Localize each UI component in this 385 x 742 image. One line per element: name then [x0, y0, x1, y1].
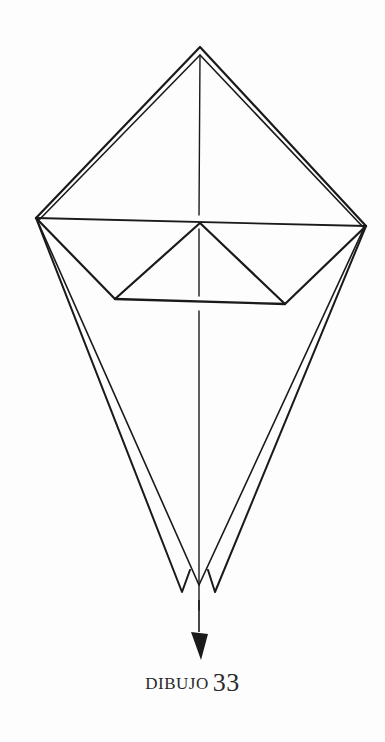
caption-number: 33: [213, 668, 240, 697]
right-lower-edges: [199, 226, 366, 592]
left-lower-edges: [36, 218, 199, 592]
arrow-down-icon: [191, 600, 208, 660]
inner-triangle-flap: [36, 218, 366, 304]
center-crease-upper: [199, 55, 200, 215]
figure-caption: DIBUJO33: [0, 668, 385, 698]
caption-word: DIBUJO: [145, 674, 208, 693]
origami-diagram: [0, 0, 385, 742]
top-flap: [36, 47, 366, 227]
